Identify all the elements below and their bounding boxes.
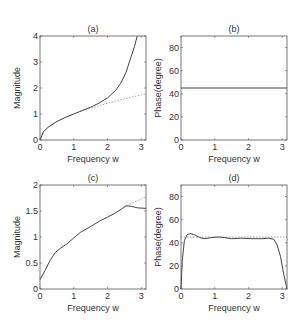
y-axis-label: Phase(degree) (153, 207, 163, 267)
x-tick-label: 1 (71, 291, 76, 301)
x-tick-label: 1 (71, 142, 76, 152)
x-tick-label: 2 (246, 291, 251, 301)
y-tick-label: 0 (174, 284, 179, 294)
series-approximation (40, 36, 137, 140)
x-tick-label: 2 (105, 291, 110, 301)
x-axis-label: Frequency w (67, 154, 119, 164)
x-tick-label: 3 (139, 291, 144, 301)
x-tick-label: 0 (178, 291, 183, 301)
y-tick-label: 80 (169, 192, 179, 202)
x-tick-label: 0 (37, 291, 42, 301)
y-tick-label: 1 (33, 109, 38, 119)
y-axis-label: Phase(degree) (153, 58, 163, 118)
y-tick-label: 3 (33, 57, 38, 67)
x-axis-label: Frequency w (67, 303, 119, 313)
y-tick-label: 1 (33, 232, 38, 242)
x-tick-label: 1 (212, 291, 217, 301)
y-tick-label: 1.5 (25, 206, 38, 216)
subplot-c: 012300.511.52(c)Frequency wMagnitude (12, 173, 146, 313)
y-tick-label: 20 (169, 112, 179, 122)
y-tick-label: 60 (169, 66, 179, 76)
x-tick-label: 0 (37, 142, 42, 152)
y-tick-label: 80 (169, 43, 179, 53)
subplot-title: (b) (229, 24, 240, 34)
x-axis-label: Frequency w (208, 303, 260, 313)
y-tick-label: 40 (169, 89, 179, 99)
x-axis-label: Frequency w (208, 154, 260, 164)
series-approximation (40, 206, 146, 280)
y-tick-label: 40 (169, 238, 179, 248)
x-tick-label: 3 (280, 142, 285, 152)
y-tick-label: 0 (33, 135, 38, 145)
subplot-title: (c) (88, 173, 99, 183)
y-tick-label: 4 (33, 31, 38, 41)
subplot-a: 012301234(a)Frequency wMagnitude (12, 24, 146, 164)
y-tick-label: 20 (169, 261, 179, 271)
subplot-title: (d) (229, 173, 240, 183)
subplot-title: (a) (88, 24, 99, 34)
x-tick-label: 2 (105, 142, 110, 152)
x-tick-label: 0 (178, 142, 183, 152)
y-axis-label: Magnitude (12, 216, 22, 258)
y-axis-label: Magnitude (12, 67, 22, 109)
y-tick-label: 0 (33, 284, 38, 294)
x-tick-label: 1 (212, 142, 217, 152)
x-tick-label: 3 (280, 291, 285, 301)
series-ideal (124, 197, 146, 207)
x-tick-label: 3 (139, 142, 144, 152)
figure: 012301234(a)Frequency wMagnitude 0123020… (0, 0, 302, 334)
y-tick-label: 2 (33, 83, 38, 93)
x-tick-label: 2 (246, 142, 251, 152)
y-tick-label: 60 (169, 215, 179, 225)
series-phase (181, 234, 287, 290)
y-tick-label: 0 (174, 135, 179, 145)
axes-box (40, 36, 146, 140)
axes-box (40, 185, 146, 289)
y-tick-label: 2 (33, 180, 38, 190)
subplot-d: 0123020406080(d)Frequency wPhase(degree) (153, 173, 287, 313)
subplot-b: 0123020406080(b)Frequency wPhase(degree) (153, 24, 287, 164)
y-tick-label: 0.5 (25, 258, 38, 268)
series-ideal (40, 94, 146, 140)
